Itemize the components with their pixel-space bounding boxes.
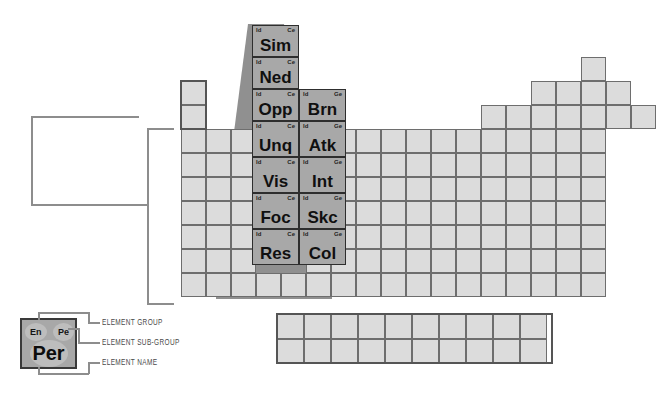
table-cell[interactable] — [406, 225, 431, 249]
element-cell-ned[interactable]: Id Ce Ned — [252, 57, 299, 89]
table-cell[interactable] — [531, 81, 556, 105]
table-cell[interactable] — [256, 273, 281, 297]
table-cell[interactable] — [506, 105, 531, 129]
table-cell[interactable] — [331, 273, 356, 297]
table-cell[interactable] — [281, 273, 306, 297]
table-cell[interactable] — [556, 177, 581, 201]
table-cell[interactable] — [506, 273, 531, 297]
table-cell[interactable] — [406, 273, 431, 297]
table-cell[interactable] — [531, 105, 556, 129]
table-cell[interactable] — [556, 153, 581, 177]
table-cell[interactable] — [481, 273, 506, 297]
element-cell-col[interactable]: Id Ge Col — [299, 229, 346, 265]
table-cell[interactable] — [581, 249, 606, 273]
table-cell[interactable] — [431, 201, 456, 225]
table-cell[interactable] — [531, 177, 556, 201]
table-cell[interactable] — [506, 177, 531, 201]
table-cell[interactable] — [531, 129, 556, 153]
element-cell-vis[interactable]: Id Ce Vis — [252, 157, 299, 193]
table-cell[interactable] — [481, 225, 506, 249]
table-cell[interactable] — [304, 339, 331, 364]
table-cell[interactable] — [506, 129, 531, 153]
table-cell[interactable] — [531, 273, 556, 297]
table-cell[interactable] — [381, 201, 406, 225]
table-cell[interactable] — [581, 105, 606, 129]
table-cell[interactable] — [304, 314, 331, 339]
table-cell[interactable] — [412, 314, 439, 339]
table-cell[interactable] — [631, 105, 656, 129]
table-cell[interactable] — [531, 201, 556, 225]
table-cell[interactable] — [381, 129, 406, 153]
table-cell[interactable] — [331, 314, 358, 339]
table-cell[interactable] — [581, 129, 606, 153]
table-cell[interactable] — [206, 225, 231, 249]
table-cell[interactable] — [481, 129, 506, 153]
table-cell[interactable] — [439, 339, 466, 364]
table-cell[interactable] — [181, 249, 206, 273]
table-cell[interactable] — [506, 153, 531, 177]
table-cell[interactable] — [356, 225, 381, 249]
table-cell[interactable] — [556, 273, 581, 297]
table-cell[interactable] — [531, 249, 556, 273]
table-cell[interactable] — [531, 153, 556, 177]
table-cell[interactable] — [406, 201, 431, 225]
table-cell[interactable] — [406, 177, 431, 201]
table-cell[interactable] — [506, 201, 531, 225]
table-cell[interactable] — [456, 249, 481, 273]
table-cell[interactable] — [456, 225, 481, 249]
table-cell[interactable] — [406, 153, 431, 177]
table-cell[interactable] — [206, 249, 231, 273]
table-cell[interactable] — [481, 249, 506, 273]
element-cell-atk[interactable]: Id Ge Atk — [299, 121, 346, 157]
table-cell[interactable] — [356, 129, 381, 153]
table-cell[interactable] — [406, 249, 431, 273]
table-cell[interactable] — [439, 314, 466, 339]
table-cell[interactable] — [181, 129, 206, 153]
table-cell[interactable] — [206, 273, 231, 297]
table-cell[interactable] — [506, 225, 531, 249]
table-cell[interactable] — [277, 314, 304, 339]
table-cell[interactable] — [358, 314, 385, 339]
table-cell[interactable] — [456, 201, 481, 225]
table-cell[interactable] — [331, 339, 358, 364]
table-cell[interactable] — [431, 153, 456, 177]
table-cell[interactable] — [493, 339, 520, 364]
table-cell[interactable] — [356, 153, 381, 177]
table-cell[interactable] — [556, 249, 581, 273]
table-cell[interactable] — [385, 314, 412, 339]
table-cell[interactable] — [381, 273, 406, 297]
table-cell[interactable] — [306, 273, 331, 297]
element-cell-foc[interactable]: Id Ce Foc — [252, 193, 299, 229]
table-cell[interactable] — [556, 225, 581, 249]
table-cell[interactable] — [481, 177, 506, 201]
table-cell[interactable] — [356, 249, 381, 273]
table-cell[interactable] — [556, 129, 581, 153]
table-cell[interactable] — [456, 129, 481, 153]
table-cell[interactable] — [606, 105, 631, 129]
table-cell[interactable] — [581, 57, 606, 81]
table-cell[interactable] — [520, 339, 547, 364]
table-cell[interactable] — [181, 177, 206, 201]
table-cell[interactable] — [581, 201, 606, 225]
table-cell[interactable] — [431, 129, 456, 153]
table-cell[interactable] — [356, 177, 381, 201]
table-cell[interactable] — [206, 201, 231, 225]
table-cell[interactable] — [181, 273, 206, 297]
table-cell[interactable] — [520, 314, 547, 339]
table-cell[interactable] — [206, 153, 231, 177]
table-cell[interactable] — [606, 81, 631, 105]
table-cell[interactable] — [381, 153, 406, 177]
element-cell-opp[interactable]: Id Ce Opp — [252, 89, 299, 121]
table-cell[interactable] — [385, 339, 412, 364]
table-cell[interactable] — [356, 273, 381, 297]
table-cell[interactable] — [481, 201, 506, 225]
table-cell[interactable] — [556, 105, 581, 129]
table-cell[interactable] — [456, 273, 481, 297]
table-cell[interactable] — [181, 81, 206, 105]
element-cell-brn[interactable]: Id Ge Brn — [299, 89, 346, 121]
element-cell-res[interactable]: Id Ce Res — [252, 229, 299, 265]
table-cell[interactable] — [431, 273, 456, 297]
table-cell[interactable] — [231, 273, 256, 297]
element-cell-int[interactable]: Id Ge Int — [299, 157, 346, 193]
table-cell[interactable] — [531, 225, 556, 249]
